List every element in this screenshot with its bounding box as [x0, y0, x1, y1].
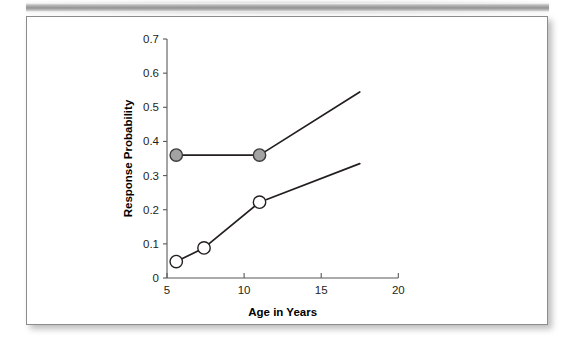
y-tick-label-0: 0 [153, 272, 159, 284]
series-1-marker-0 [170, 255, 182, 267]
x-tick-label-3: 20 [392, 284, 405, 296]
x-tick-label-2: 15 [315, 284, 328, 296]
y-tick-label-6: 0.6 [143, 67, 159, 79]
x-tick-label-0: 5 [164, 284, 170, 296]
figure-panel: 00.10.20.30.40.50.60.75101520Age in Year… [26, 16, 548, 325]
series-1-marker-2 [253, 196, 265, 208]
series-0-line [176, 92, 360, 155]
x-axis-title: Age in Years [248, 306, 317, 318]
series-0-marker-1 [253, 149, 265, 161]
y-tick-label-3: 0.3 [143, 170, 159, 182]
x-tick-label-1: 10 [238, 284, 251, 296]
plot-area: 00.10.20.30.40.50.60.75101520Age in Year… [27, 17, 549, 326]
top-decorative-band [26, 3, 549, 12]
y-tick-label-5: 0.5 [143, 101, 159, 113]
line-chart: 00.10.20.30.40.50.60.75101520Age in Year… [27, 17, 549, 326]
y-tick-label-2: 0.2 [143, 204, 159, 216]
y-axis-title: Response Probability [122, 99, 134, 217]
y-tick-label-7: 0.7 [143, 33, 159, 45]
y-tick-label-4: 0.4 [143, 135, 160, 147]
y-tick-label-1: 0.1 [143, 238, 159, 250]
series-0-marker-0 [170, 149, 182, 161]
series-1-marker-1 [198, 242, 210, 254]
